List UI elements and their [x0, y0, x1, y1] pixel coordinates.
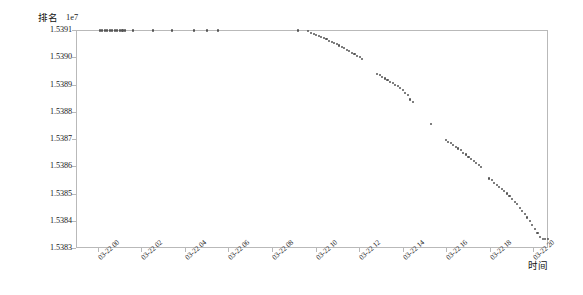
y-tick-mark [72, 112, 76, 113]
y-tick-label: 1.5386 [30, 161, 72, 170]
data-point [171, 29, 173, 31]
data-point [536, 232, 538, 234]
data-point [389, 81, 391, 83]
data-point [447, 141, 449, 143]
data-point [394, 84, 396, 86]
data-point [338, 44, 340, 46]
data-point [101, 29, 103, 31]
data-point [470, 158, 472, 160]
y-tick-mark [72, 30, 76, 31]
y-tick-mark [72, 194, 76, 195]
y-tick-label: 1.5385 [30, 189, 72, 198]
data-point [519, 207, 521, 209]
scatter-chart: 排名 1e7 时间 1.53911.53901.53891.53881.5387… [0, 0, 583, 295]
y-tick-label: 1.5384 [30, 216, 72, 225]
plot-area [76, 30, 548, 248]
data-point [152, 29, 154, 31]
y-tick-mark [72, 221, 76, 222]
data-point [297, 29, 299, 31]
data-point [356, 55, 358, 57]
data-point [547, 238, 549, 240]
data-point [402, 89, 404, 91]
data-point [124, 29, 126, 31]
data-point [361, 58, 363, 60]
y-tick-mark [72, 166, 76, 167]
y-tick-label: 1.5389 [30, 80, 72, 89]
data-point [529, 220, 531, 222]
y-axis-title: 排名 [38, 10, 58, 24]
y-tick-label: 1.5391 [30, 25, 72, 34]
y-tick-mark [72, 248, 76, 249]
data-point [106, 29, 108, 31]
y-tick-label: 1.5387 [30, 134, 72, 143]
y-tick-mark [72, 85, 76, 86]
y-tick-label: 1.5390 [30, 52, 72, 61]
y-tick-label: 1.5388 [30, 107, 72, 116]
data-point [534, 228, 536, 230]
y-tick-mark [72, 139, 76, 140]
y-tick-label: 1.5383 [30, 243, 72, 252]
data-point [328, 40, 330, 42]
data-point [488, 177, 490, 179]
y-axis-offset-text: 1e7 [66, 13, 78, 22]
data-point [508, 195, 510, 197]
data-point [217, 29, 219, 31]
y-tick-mark [72, 57, 76, 58]
